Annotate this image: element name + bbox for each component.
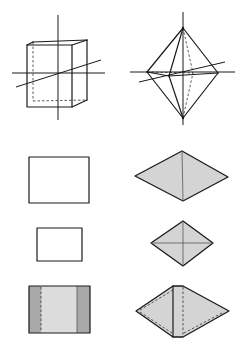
octahedron-top-rhombus — [151, 221, 213, 266]
prism-top-rectangle — [37, 228, 82, 261]
octahedron-shaded-view — [136, 286, 229, 337]
prism-front-view — [29, 157, 89, 203]
prism-shaded-middle-face — [41, 286, 77, 333]
octahedron-edge-bottom-front — [169, 76, 183, 118]
prism-3d — [12, 15, 105, 120]
prism-front-rectangle — [29, 157, 89, 203]
crystal-diagram — [0, 0, 246, 351]
prism-top-view — [37, 228, 82, 261]
octahedron-top-vertex — [182, 27, 184, 29]
prism-hidden-bottom-edge — [33, 100, 87, 101]
octahedron-oblique-outline — [136, 286, 229, 337]
prism-bottom-right-edge — [72, 100, 87, 107]
octahedron-top-view — [151, 221, 213, 266]
octahedron-front-view — [135, 151, 228, 201]
octahedron-edge-top-left — [147, 28, 183, 72]
octahedron-3d — [130, 12, 235, 125]
prism-shaded-left-strip — [29, 286, 41, 333]
octahedron-front-rhombus — [135, 151, 228, 201]
octahedron-bottom-vertex — [182, 117, 184, 119]
prism-shaded-right-strip — [77, 286, 90, 333]
octahedron-edge-top-front — [169, 28, 183, 76]
octahedron-edge-bottom-left — [147, 72, 183, 118]
prism-top-back-edge — [33, 40, 87, 42]
prism-shaded-view — [29, 286, 90, 333]
